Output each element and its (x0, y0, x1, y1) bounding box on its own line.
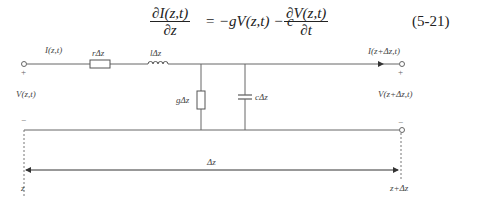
output-plus-sign: + (398, 67, 403, 77)
series-inductor (148, 62, 168, 65)
output-voltage-label: V(z+Δz,t) (378, 89, 413, 99)
input-minus-sign: − (21, 115, 26, 125)
output-terminal-bottom (400, 128, 405, 133)
series-resistor (90, 60, 110, 68)
input-terminal-top (22, 62, 27, 67)
dimension-end-label: z+Δz (390, 183, 408, 193)
shunt-capacitor-label: cΔz (255, 92, 268, 102)
series-inductor-label: lΔz (150, 48, 161, 58)
output-minus-sign: − (398, 117, 403, 127)
input-voltage-label: V(z,t) (16, 89, 36, 99)
shunt-conductance (197, 64, 205, 130)
input-plus-sign: + (21, 67, 26, 77)
shunt-conductance-label: gΔz (176, 95, 189, 105)
output-terminal-top (400, 62, 405, 67)
output-current-label: I(z+Δz,t) (368, 46, 400, 56)
current-arrow (378, 61, 384, 67)
dimension-start-label: z (21, 183, 25, 193)
dimension-length-label: Δz (207, 157, 216, 167)
input-current-label: I(z,t) (45, 45, 62, 55)
series-resistor-label: rΔz (92, 48, 104, 58)
shunt-capacitor (238, 64, 252, 130)
circuit-diagram (0, 0, 484, 199)
